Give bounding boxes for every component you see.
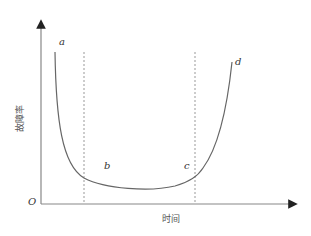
label-d: d <box>235 56 241 67</box>
label-c: c <box>184 160 190 171</box>
label-a: a <box>59 36 65 47</box>
label-b: b <box>104 160 110 171</box>
origin-label: O <box>28 196 36 207</box>
y-axis-title: 故障率 <box>14 105 25 132</box>
bathtub-curve-diagram: a b c d O 时间 故障率 <box>0 0 311 236</box>
bathtub-curve <box>55 52 232 189</box>
x-axis-title: 时间 <box>162 213 180 224</box>
